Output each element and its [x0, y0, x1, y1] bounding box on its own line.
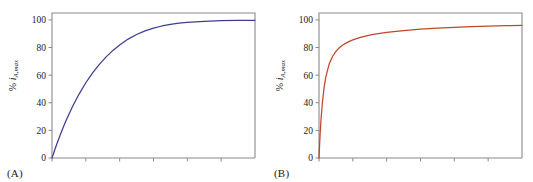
- svg-text:20: 20: [304, 126, 314, 136]
- panel-b: (B) % iA,max 020406080100: [267, 0, 533, 182]
- panel-a-svg: 020406080100: [0, 0, 266, 182]
- panel-b-svg: 020406080100: [267, 0, 533, 182]
- panel-a-plot: 020406080100: [0, 0, 266, 182]
- svg-text:40: 40: [304, 98, 314, 108]
- panel-a: (A) % iA,max 020406080100: [0, 0, 266, 182]
- svg-text:0: 0: [41, 153, 46, 163]
- svg-text:60: 60: [37, 71, 47, 81]
- svg-text:80: 80: [37, 43, 47, 53]
- svg-text:60: 60: [304, 71, 314, 81]
- svg-text:100: 100: [32, 15, 47, 25]
- svg-text:20: 20: [37, 126, 47, 136]
- svg-text:100: 100: [299, 15, 314, 25]
- svg-text:40: 40: [37, 98, 47, 108]
- panel-b-plot: 020406080100: [267, 0, 533, 182]
- figure-container: (A) % iA,max 020406080100 (B) % iA,max 0…: [0, 0, 533, 182]
- svg-text:0: 0: [308, 153, 313, 163]
- svg-text:80: 80: [304, 43, 314, 53]
